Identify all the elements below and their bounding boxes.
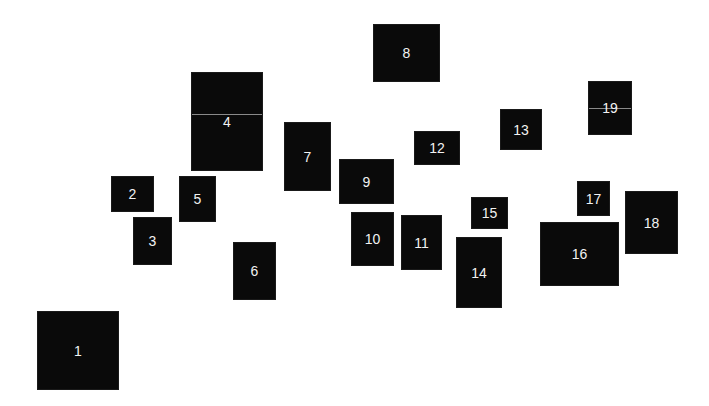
box-label: 7 bbox=[304, 150, 312, 164]
box-label: 13 bbox=[513, 123, 529, 137]
box-13: 13 bbox=[500, 109, 542, 150]
box-label: 8 bbox=[403, 46, 411, 60]
box-16: 16 bbox=[540, 222, 619, 286]
box-label: 12 bbox=[429, 141, 445, 155]
box-label: 2 bbox=[129, 187, 137, 201]
box-label: 19 bbox=[602, 101, 618, 115]
box-8: 8 bbox=[373, 24, 440, 82]
box-15: 15 bbox=[471, 197, 508, 229]
box-2: 2 bbox=[111, 176, 154, 212]
box-4: 4 bbox=[191, 72, 263, 171]
box-5: 5 bbox=[179, 176, 216, 222]
box-label: 6 bbox=[251, 264, 259, 278]
box-11: 11 bbox=[401, 215, 442, 270]
box-18: 18 bbox=[625, 191, 678, 254]
box-7: 7 bbox=[284, 122, 331, 191]
box-14: 14 bbox=[456, 237, 502, 308]
box-9: 9 bbox=[339, 159, 394, 204]
box-3: 3 bbox=[133, 217, 172, 265]
box-label: 17 bbox=[586, 192, 602, 206]
box-1: 1 bbox=[37, 311, 119, 390]
box-label: 9 bbox=[363, 175, 371, 189]
box-6: 6 bbox=[233, 242, 276, 300]
box-label: 14 bbox=[471, 266, 487, 280]
box-label: 3 bbox=[149, 234, 157, 248]
box-label: 5 bbox=[194, 192, 202, 206]
box-label: 15 bbox=[482, 206, 498, 220]
box-10: 10 bbox=[351, 212, 394, 266]
box-19: 19 bbox=[588, 81, 632, 135]
box-12: 12 bbox=[414, 131, 460, 165]
box-label: 18 bbox=[644, 216, 660, 230]
box-label: 1 bbox=[74, 344, 82, 358]
box-17: 17 bbox=[577, 181, 610, 216]
box-label: 10 bbox=[365, 232, 381, 246]
box-label: 4 bbox=[223, 115, 231, 129]
box-label: 16 bbox=[572, 247, 588, 261]
box-label: 11 bbox=[414, 236, 429, 250]
